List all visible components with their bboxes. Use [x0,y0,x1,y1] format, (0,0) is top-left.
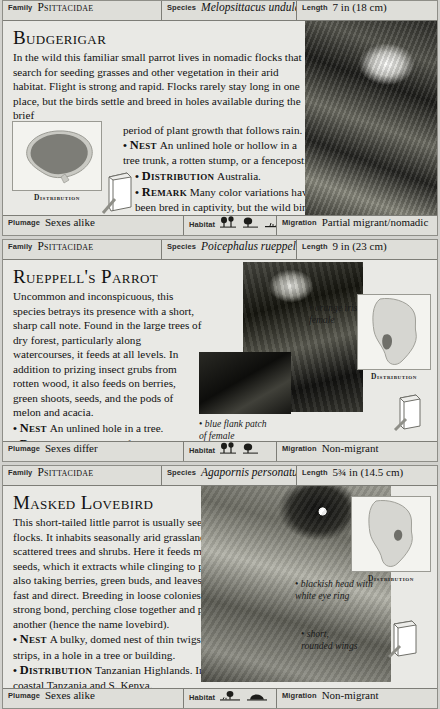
nest-hole-icon-svg [101,163,137,215]
habitat-cell: Habitat [184,689,277,708]
nest-label: Nest [20,632,47,646]
nest-hole-icon-svg [393,386,425,432]
nest-icon [387,612,421,664]
entry-body: Rueppell's Parrot Uncommon and inconspic… [3,260,437,443]
plumage-key: Plumage [8,218,40,227]
intro-paragraph: Uncommon and inconspicuous, this species… [13,289,203,420]
family-key: Family [8,242,32,251]
species-value: Agapornis personatus [201,466,297,478]
family-cell: Family Psittacidae [3,240,162,259]
blue-flank-annotation: • blue flank patch of female [199,418,269,442]
migration-key: Migration [282,691,317,700]
habitat-icon-row [220,442,258,455]
family-value: Psittacidae [37,240,93,252]
plumage-key: Plumage [8,691,40,700]
annotation-text: blue flank patch of female [199,418,267,441]
species-entry-masked-lovebird: Family Psittacidae Species Agapornis per… [2,465,438,709]
habitat-key: Habitat [189,446,215,455]
length-cell: Length 9 in (23 cm) [297,240,437,259]
annotation-bullet: • [309,302,312,313]
habitat-cell: Habitat [184,442,277,461]
entry-header-bar: Family Psittacidae Species Agapornis per… [3,466,437,486]
plumage-value: Sexes alike [45,689,95,701]
length-value: 7 in (18 cm) [333,1,387,13]
species-entry-rueppells-parrot: Family Psittacidae Species Poicephalus r… [2,239,438,462]
intro-paragraph-continued: period of plant growth that follows rain… [123,123,311,138]
distribution-bullet: • Distribution Australia. [135,168,323,184]
migration-cell: Migration Non-migrant [277,442,437,461]
budgerigar-photograph [305,21,437,217]
migration-value: Non-migrant [322,689,379,701]
length-value: 9 in (23 cm) [333,240,387,252]
east-africa-map-svg [352,497,430,571]
nest-hole-icon-svg [387,612,421,660]
bush-icon [243,442,258,454]
nest-label: Nest [20,421,47,435]
distribution-map-australia: Distribution [12,121,102,202]
migration-value: Partial migrant/nomadic [322,216,429,228]
plumage-value: Sexes differ [45,442,98,454]
trees-icon [220,442,236,454]
entry-body: Budgerigar In the wild this familiar sma… [3,21,437,217]
length-key: Length [302,242,328,251]
nest-label: Nest [130,138,157,152]
nest-bullet: • Nest An unlined hole or hollow in a tr… [123,137,311,168]
species-entry-budgerigar: Family Psittacidae Species Melopsittacus… [2,0,438,236]
entry-footer-bar: Plumage Sexes alike Habitat Migration Pa… [3,215,437,235]
entry-footer-bar: Plumage Sexes differ Habitat Migration N… [3,441,437,461]
africa-map-svg [358,295,430,369]
map-frame [12,121,102,191]
migration-key: Migration [282,218,317,227]
remark-bullet: • Remark Many color variations have been… [135,184,323,217]
habitat-key: Habitat [189,693,215,702]
migration-cell: Migration Partial migrant/nomadic [277,216,437,235]
species-value: Poicephalus rueppellii [201,240,297,252]
habitat-key: Habitat [189,220,215,229]
length-cell: Length 5¾ in (14.5 cm) [297,466,437,485]
entry-header-bar: Family Psittacidae Species Poicephalus r… [3,240,437,260]
scrub-icon [220,689,240,701]
entry-footer-bar: Plumage Sexes alike Habitat Migration No… [3,688,437,708]
grassland-icon [265,216,277,228]
map-caption: Distribution [351,574,431,583]
remark-label: Remark [142,185,187,199]
annotation-bullet: • [199,418,202,429]
family-value: Psittacidae [37,1,93,13]
species-key: Species [167,242,196,251]
habitat-icon-row [220,216,277,229]
plumage-key: Plumage [8,444,40,453]
rueppells-parrot-male-photograph [199,352,291,414]
migration-key: Migration [282,444,317,453]
distribution-map-east-africa: Distribution [351,496,431,583]
length-cell: Length 7 in (18 cm) [297,1,437,20]
wrapped-text-column: period of plant growth that follows rain… [123,123,311,168]
entry-prose-indented: • Distribution Australia. • Remark Many … [125,168,323,217]
distribution-label: Distribution [142,169,215,183]
plumage-value: Sexes alike [45,216,95,228]
species-cell: Species Melopsittacus undulatus [162,1,297,20]
map-frame [357,294,431,370]
annotation-bullet: • [295,578,298,589]
entry-prose: Uncommon and inconspicuous, this species… [3,289,203,443]
map-frame [351,496,431,572]
migration-cell: Migration Non-migrant [277,689,437,708]
annotation-bullet: • [301,628,304,639]
distribution-map-africa: Distribution [357,294,431,381]
family-key: Family [8,3,32,12]
nest-bullet: • Nest An unlined hole in a tree. [13,420,203,436]
species-cell: Species Agapornis personatus [162,466,297,485]
australia-map-svg [13,122,101,190]
habitat-cell: Habitat [184,216,277,235]
entry-body: Masked Lovebird This short-tailed little… [3,486,437,690]
family-cell: Family Psittacidae [3,466,162,485]
plumage-cell: Plumage Sexes differ [3,442,184,461]
entry-header-bar: Family Psittacidae Species Melopsittacus… [3,1,437,21]
plumage-cell: Plumage Sexes alike [3,689,184,708]
nest-text: An unlined hole in a tree. [50,422,164,434]
length-value: 5¾ in (14.5 cm) [333,466,404,478]
page-title: Rueppell's Parrot [3,260,437,289]
bush-icon [247,689,267,701]
species-cell: Species Poicephalus rueppellii [162,240,297,259]
species-value: Melopsittacus undulatus [201,1,297,13]
